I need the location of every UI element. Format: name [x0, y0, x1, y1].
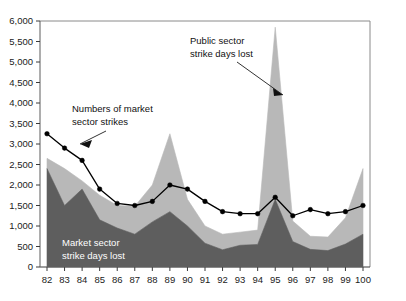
x-tick-label: 83: [59, 274, 70, 285]
x-tick-label: 90: [182, 274, 193, 285]
x-tick-label: 99: [340, 274, 351, 285]
line-data-point: [290, 213, 295, 218]
market-sector-strikes-annotation-line1: Numbers of market: [72, 103, 153, 114]
line-data-point: [361, 203, 366, 208]
y-tick-label: 3,000: [9, 138, 33, 149]
line-data-point: [220, 209, 225, 214]
line-data-point: [343, 209, 348, 214]
x-tick-label: 98: [323, 274, 334, 285]
y-tick-label: 0: [28, 261, 33, 272]
x-tick-label: 86: [112, 274, 123, 285]
y-tick-label: 3,500: [9, 118, 33, 129]
line-data-point: [326, 211, 331, 216]
line-data-point: [203, 199, 208, 204]
x-tick-label: 84: [77, 274, 88, 285]
y-tick-label: 1,000: [9, 220, 33, 231]
y-tick-label: 2,000: [9, 179, 33, 190]
line-data-point: [62, 146, 67, 151]
x-tick-label: 94: [252, 274, 263, 285]
x-tick-label: 96: [287, 274, 298, 285]
line-data-point: [150, 199, 155, 204]
public-sector-days-annotation-line1: Public sector: [190, 35, 244, 46]
strike-days-area-chart: 6,0005,5005,0004,5004,0003,5003,0002,500…: [0, 0, 406, 301]
y-tick-label: 1,500: [9, 200, 33, 211]
line-data-point: [115, 201, 120, 206]
line-data-point: [273, 195, 278, 200]
x-tick-label: 92: [217, 274, 228, 285]
y-tick-label: 5,000: [9, 56, 33, 67]
line-data-point: [45, 131, 50, 136]
x-tick-label: 82: [42, 274, 53, 285]
line-data-point: [168, 183, 173, 188]
x-tick-label: 93: [235, 274, 246, 285]
x-tick-label: 85: [94, 274, 105, 285]
x-tick-label: 89: [165, 274, 176, 285]
x-tick-label: 100: [355, 274, 371, 285]
line-data-point: [97, 187, 102, 192]
market-sector-strikes-annotation-line2: sector strikes: [72, 116, 128, 127]
public-sector-days-annotation-line2: strike days lost: [190, 48, 253, 59]
y-tick-label: 5,500: [9, 36, 33, 47]
line-data-point: [308, 207, 313, 212]
line-data-point: [185, 187, 190, 192]
y-tick-label: 2,500: [9, 159, 33, 170]
x-tick-label: 88: [147, 274, 158, 285]
line-data-point: [132, 203, 137, 208]
line-data-point: [255, 211, 260, 216]
line-data-point: [238, 211, 243, 216]
x-tick-label: 87: [129, 274, 140, 285]
market-sector-days-annotation-line1: Market sector: [62, 237, 120, 248]
y-tick-label: 4,500: [9, 77, 33, 88]
chart-container: 6,0005,5005,0004,5004,0003,5003,0002,500…: [0, 0, 406, 301]
x-tick-label: 91: [200, 274, 211, 285]
y-tick-label: 4,000: [9, 97, 33, 108]
line-data-point: [80, 158, 85, 163]
x-tick-label: 95: [270, 274, 281, 285]
y-tick-label: 500: [17, 241, 33, 252]
market-sector-days-annotation-line2: strike days lost: [62, 250, 125, 261]
x-tick-label: 97: [305, 274, 316, 285]
y-tick-label: 6,000: [9, 15, 33, 26]
